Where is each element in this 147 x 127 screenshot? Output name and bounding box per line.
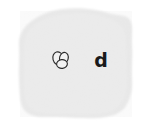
image-canvas: d bbox=[0, 0, 147, 127]
bean-shapes bbox=[51, 51, 69, 70]
foreground-marks: d bbox=[0, 0, 147, 127]
overlapping-beans-icon[interactable] bbox=[51, 50, 71, 72]
letter-d-label: d bbox=[90, 48, 112, 72]
